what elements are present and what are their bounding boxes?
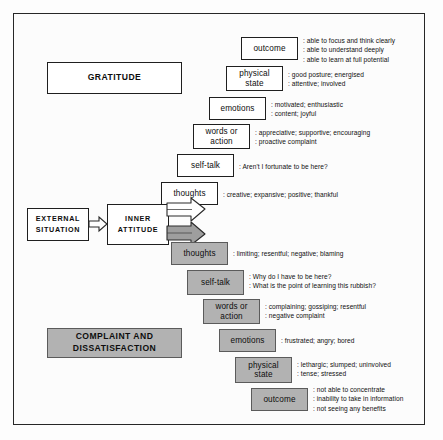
external-situation-box: EXTERNAL SITUATION <box>27 208 89 241</box>
inner-attitude-box: INNER ATTITUDE <box>107 204 169 245</box>
negative-step-emotions-description: : frustrated; angry; bored <box>281 336 355 345</box>
negative-physical-line-1: : lethargic; slumped; uninvolved <box>297 360 391 369</box>
negative-step-thoughts-description: : limiting; resentful; negative; blaming <box>233 249 343 258</box>
negative-step-words-or-action-box: words or action <box>203 299 260 324</box>
gratitude-heading-box: GRATITUDE <box>47 62 182 94</box>
external-situation-label-line1: EXTERNAL <box>36 214 80 225</box>
positive-outcome-line-1: : able to focus and think clearly <box>303 36 395 45</box>
positive-physical-line-2: : attentive; involved <box>288 79 364 88</box>
negative-step-self-talk-label: self-talk <box>201 278 230 287</box>
positive-step-self-talk-description: : Aren't I fortunate to be here? <box>239 162 328 171</box>
positive-step-thoughts-description: : creative; expansive; positive; thankfu… <box>223 190 338 199</box>
negative-step-self-talk-description: : Why do I have to be here? : What is th… <box>249 272 376 291</box>
positive-outcome-line-3: : able to learn at full potential <box>303 55 395 64</box>
negative-outcome-line-3: : not seeing any benefits <box>313 404 403 413</box>
positive-step-outcome-box: outcome <box>241 37 298 60</box>
positive-words-line-2: : proactive complaint <box>255 137 370 146</box>
negative-step-words-or-action-description: : complaining; gossiping; resentful : ne… <box>265 302 366 321</box>
positive-physical-line-1: : good posture; energised <box>288 70 364 79</box>
external-situation-label-line2: SITUATION <box>36 225 81 236</box>
complaint-heading-label-line2: DISSATISFACTION <box>73 343 156 355</box>
positive-step-emotions-description: : motivated; enthusiastic : content; joy… <box>271 100 343 119</box>
positive-step-words-or-action-label-line1: words or <box>205 127 237 136</box>
inner-attitude-label-line1: INNER <box>125 214 151 225</box>
negative-outcome-line-2: : inability to take in information <box>313 394 403 403</box>
negative-words-line-2: : negative complaint <box>265 311 366 320</box>
positive-step-words-or-action-box: words or action <box>193 124 250 149</box>
negative-words-line-1: : complaining; gossiping; resentful <box>265 302 366 311</box>
positive-emotions-line-1: : motivated; enthusiastic <box>271 100 343 109</box>
positive-step-outcome-label: outcome <box>253 44 285 53</box>
negative-step-physical-state-description: : lethargic; slumped; uninvolved : tense… <box>297 360 391 379</box>
positive-step-self-talk-label: self-talk <box>191 161 220 170</box>
negative-emotions-line-1: : frustrated; angry; bored <box>281 336 355 345</box>
positive-step-physical-state-label-line2: state <box>245 79 263 88</box>
positive-step-words-or-action-label-line2: action <box>210 137 232 146</box>
negative-step-thoughts-box: thoughts <box>171 242 228 265</box>
positive-step-outcome-description: : able to focus and think clearly : able… <box>303 36 395 64</box>
positive-step-emotions-label: emotions <box>220 104 254 113</box>
positive-thoughts-line-1: : creative; expansive; positive; thankfu… <box>223 190 338 199</box>
negative-step-outcome-description: : not able to concentrate : inability to… <box>313 385 403 413</box>
positive-step-physical-state-description: : good posture; energised : attentive; i… <box>288 70 364 89</box>
complaint-heading-box: COMPLAINT AND DISSATISFACTION <box>47 328 182 358</box>
negative-step-words-or-action-label-line2: action <box>220 312 242 321</box>
positive-emotions-line-2: : content; joyful <box>271 109 343 118</box>
negative-physical-line-2: : tense; stressed <box>297 369 391 378</box>
negative-step-emotions-box: emotions <box>219 329 276 352</box>
positive-words-line-1: : appreciative; supportive; encouraging <box>255 128 370 137</box>
negative-step-self-talk-box: self-talk <box>187 270 244 295</box>
negative-step-outcome-box: outcome <box>251 388 308 411</box>
complaint-heading-label-line1: COMPLAINT AND <box>76 331 154 343</box>
negative-self-talk-line-1: : Why do I have to be here? <box>249 272 376 281</box>
positive-self-talk-line-1: : Aren't I fortunate to be here? <box>239 162 328 171</box>
negative-step-words-or-action-label-line1: words or <box>215 302 247 311</box>
negative-step-physical-state-label-line1: physical <box>248 361 278 370</box>
inner-attitude-label-line2: ATTITUDE <box>118 225 159 236</box>
negative-step-physical-state-box: physical state <box>235 357 292 383</box>
negative-outcome-line-1: : not able to concentrate <box>313 385 403 394</box>
positive-step-physical-state-label-line1: physical <box>239 69 269 78</box>
negative-thoughts-line-1: : limiting; resentful; negative; blaming <box>233 249 343 258</box>
negative-self-talk-line-2: : What is the point of learning this rub… <box>249 281 376 290</box>
diagram-canvas: GRATITUDE outcome : able to focus and th… <box>0 0 443 440</box>
negative-step-outcome-label: outcome <box>263 395 295 404</box>
positive-step-emotions-box: emotions <box>209 97 266 120</box>
positive-step-words-or-action-description: : appreciative; supportive; encouraging … <box>255 128 370 147</box>
negative-step-emotions-label: emotions <box>230 336 264 345</box>
negative-step-thoughts-label: thoughts <box>183 249 215 258</box>
gratitude-heading-label: GRATITUDE <box>88 72 142 84</box>
positive-step-physical-state-box: physical state <box>226 66 283 91</box>
positive-step-self-talk-box: self-talk <box>177 154 234 177</box>
block-arrow-right-icon <box>89 216 109 234</box>
positive-outcome-line-2: : able to understand deeply <box>303 45 395 54</box>
negative-step-physical-state-label-line2: state <box>254 370 272 379</box>
